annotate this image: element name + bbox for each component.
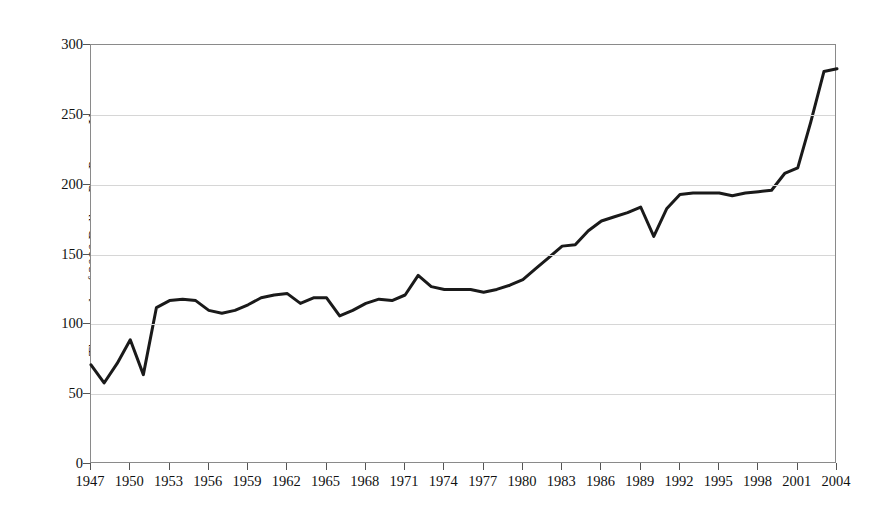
x-tick-mark-1989 <box>640 463 641 470</box>
gridline-y-200 <box>91 185 835 186</box>
x-tick-mark-1956 <box>208 463 209 470</box>
y-tick-mark-50 <box>83 393 90 394</box>
y-tick-mark-0 <box>83 463 90 464</box>
x-tick-mark-2001 <box>797 463 798 470</box>
x-tick-mark-1959 <box>247 463 248 470</box>
plot-area <box>90 44 836 463</box>
x-tick-mark-1953 <box>169 463 170 470</box>
x-tick-mark-1968 <box>365 463 366 470</box>
chart-figure: Thousands of 2000 Dollars Per Person-Yea… <box>0 0 874 523</box>
y-tick-label-100: 100 <box>7 316 83 331</box>
x-tick-mark-1983 <box>561 463 562 470</box>
gridline-y-250 <box>91 115 835 116</box>
x-tick-mark-1986 <box>600 463 601 470</box>
gridline-y-100 <box>91 324 835 325</box>
x-tick-mark-2004 <box>836 463 837 470</box>
x-tick-mark-1971 <box>404 463 405 470</box>
y-tick-label-300: 300 <box>7 37 83 52</box>
gridline-y-150 <box>91 255 835 256</box>
x-tick-mark-1980 <box>522 463 523 470</box>
y-tick-label-200: 200 <box>7 176 83 191</box>
x-tick-mark-1950 <box>129 463 130 470</box>
y-tick-mark-100 <box>83 323 90 324</box>
y-tick-mark-250 <box>83 114 90 115</box>
y-tick-mark-150 <box>83 254 90 255</box>
x-tick-mark-1995 <box>718 463 719 470</box>
x-tick-mark-1947 <box>90 463 91 470</box>
x-tick-mark-1992 <box>679 463 680 470</box>
y-tick-label-150: 150 <box>7 246 83 261</box>
y-tick-label-250: 250 <box>7 107 83 122</box>
y-tick-mark-300 <box>83 44 90 45</box>
y-tick-mark-200 <box>83 184 90 185</box>
x-tick-mark-1962 <box>286 463 287 470</box>
x-tick-mark-1998 <box>757 463 758 470</box>
y-axis-ticks: 050100150200250300 <box>0 0 83 523</box>
y-tick-label-0: 0 <box>7 456 83 471</box>
x-tick-mark-1965 <box>326 463 327 470</box>
gridline-y-50 <box>91 394 835 395</box>
y-tick-label-50: 50 <box>7 386 83 401</box>
x-tick-mark-1974 <box>443 463 444 470</box>
x-tick-label-2004: 2004 <box>806 474 866 489</box>
x-tick-mark-1977 <box>483 463 484 470</box>
